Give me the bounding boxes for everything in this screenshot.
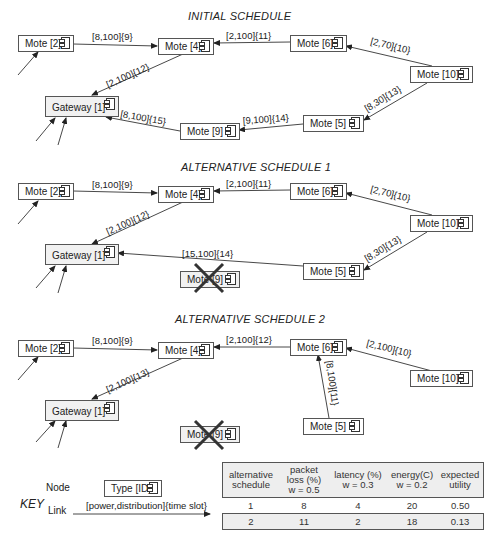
link-label: [2,100]{13} [104, 366, 150, 395]
component-icon [61, 342, 70, 354]
component-icon [106, 402, 115, 414]
node-mote-5[interactable]: Mote [5] [303, 115, 364, 132]
cell-schedule: 2 [223, 514, 280, 530]
component-icon [227, 428, 236, 440]
incoming-gw-1 [36, 118, 55, 141]
component-icon [201, 188, 210, 200]
node-mote-9[interactable]: Mote [9] [180, 123, 240, 140]
node-mote-4[interactable]: Mote [4] [158, 342, 214, 359]
component-icon [334, 341, 343, 353]
component-icon [351, 117, 360, 129]
component-icon [460, 372, 469, 384]
node-mote-4[interactable]: Mote [4] [158, 186, 214, 203]
link-label: [2,100]{12} [226, 334, 272, 345]
link-label: [2,100]{12} [104, 208, 150, 237]
component-icon [61, 185, 70, 197]
section-title-alt-2: ALTERNATIVE SCHEDULE 2 [175, 313, 325, 325]
link-label: [2,100]{11} [226, 30, 271, 41]
cell-latency: 4 [329, 498, 387, 514]
component-icon [106, 246, 115, 258]
table-row-selected: 2 11 2 18 0.13 [223, 514, 484, 530]
component-icon [351, 420, 360, 432]
link-m2-m4 [73, 44, 157, 46]
key-node-example: Type [ID] [104, 480, 162, 497]
incoming-gw-2 [58, 118, 66, 145]
failed-node-cross-icon [192, 261, 226, 295]
key-link-label: Link [48, 505, 66, 516]
header-utility: expected utility [437, 463, 484, 498]
header-schedule: alternative schedule [223, 463, 280, 498]
table-header-row: alternative schedule packet loss (%) w =… [223, 463, 484, 498]
cell-utility: 0.13 [437, 514, 484, 530]
node-mote-10[interactable]: Mote [10] [410, 66, 473, 83]
cell-packet-loss: 8 [279, 498, 329, 514]
failed-node-cross-icon [192, 418, 226, 452]
component-icon [227, 273, 236, 285]
cell-schedule: 1 [223, 498, 280, 514]
link-m6-m4 [214, 42, 290, 43]
cell-utility: 0.50 [437, 498, 484, 514]
section-title-alt-1: ALTERNATIVE SCHEDULE 1 [181, 161, 331, 173]
link-label: [8,100]{9} [92, 31, 133, 42]
link-label: [8,100]{11} [324, 360, 341, 406]
link-label: [2,100]{12} [104, 61, 150, 90]
node-mote-6[interactable]: Mote [6] [290, 183, 347, 200]
component-icon [351, 265, 360, 277]
header-latency: latency (%) w = 0.3 [329, 463, 387, 498]
component-icon [460, 217, 469, 229]
key-link-example: [power,distribution]{time slot} [86, 500, 207, 511]
utility-table: alternative schedule packet loss (%) w =… [222, 462, 484, 530]
component-icon [61, 37, 70, 49]
node-mote-10[interactable]: Mote [10] [410, 370, 473, 387]
key-node-label: Node [46, 482, 70, 493]
link-label: [8,100]{9} [92, 179, 133, 190]
table-row: 1 8 4 20 0.50 [223, 498, 484, 514]
link-label: [8,100]{9} [92, 335, 133, 346]
component-icon [334, 185, 343, 197]
key-title: KEY [20, 497, 44, 511]
link-label: [15,100]{14} [182, 248, 233, 259]
node-mote-4[interactable]: Mote [4] [158, 38, 214, 55]
incoming-m2 [18, 52, 38, 75]
component-icon [227, 125, 236, 137]
component-icon [106, 98, 115, 110]
node-gateway-1[interactable]: Gateway [1] [45, 400, 119, 421]
cell-latency: 2 [329, 514, 387, 530]
section-title-initial: INITIAL SCHEDULE [188, 10, 291, 22]
node-mote-6[interactable]: Mote [6] [290, 35, 347, 52]
header-energy: energy(C) w = 0.2 [387, 463, 437, 498]
component-icon [334, 37, 343, 49]
link-label: [2,100]{11} [226, 178, 271, 189]
node-mote-6[interactable]: Mote [6] [290, 339, 347, 356]
node-mote-2[interactable]: Mote [2] [18, 35, 74, 52]
node-mote-2[interactable]: Mote [2] [18, 340, 74, 357]
link-label: [2,100]{10} [366, 337, 413, 359]
node-mote-5[interactable]: Mote [5] [303, 418, 364, 435]
component-icon [201, 344, 210, 356]
node-gateway-1[interactable]: Gateway [1] [45, 244, 119, 265]
link-label: [9,100]{14} [242, 112, 289, 126]
component-icon [460, 68, 469, 80]
component-icon [201, 40, 210, 52]
node-mote-10[interactable]: Mote [10] [410, 215, 473, 232]
component-icon [149, 482, 158, 494]
node-gateway-1[interactable]: Gateway [1] [45, 96, 119, 117]
cell-energy: 18 [387, 514, 437, 530]
cell-packet-loss: 11 [279, 514, 329, 530]
cell-energy: 20 [387, 498, 437, 514]
node-mote-5[interactable]: Mote [5] [303, 263, 364, 280]
node-mote-2[interactable]: Mote [2] [18, 183, 74, 200]
header-packet-loss: packet loss (%) w = 0.5 [279, 463, 329, 498]
